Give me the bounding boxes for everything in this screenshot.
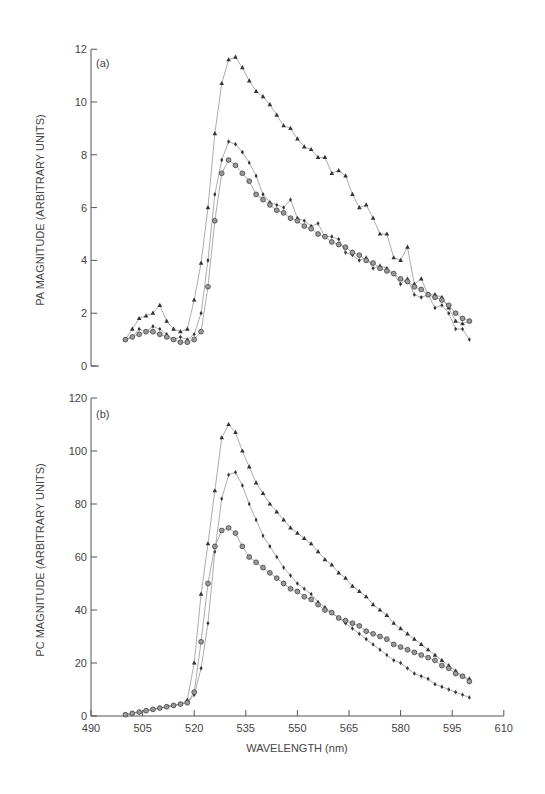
circle-marker	[316, 602, 321, 607]
triangle-marker	[158, 303, 163, 307]
circle-marker	[405, 647, 410, 652]
triangle-marker	[233, 55, 238, 59]
y-tick-label: 40	[75, 604, 87, 616]
circle-marker	[419, 653, 424, 658]
triangle-marker	[302, 536, 307, 540]
circle-marker	[288, 216, 293, 221]
circle-marker	[446, 666, 451, 671]
x-tick-label: 565	[340, 722, 358, 734]
circle-marker	[378, 266, 383, 271]
series-line-circles	[125, 160, 469, 342]
circle-marker	[240, 171, 245, 176]
circle-marker	[171, 703, 176, 708]
triangle-marker	[261, 94, 266, 98]
series-line-triangles	[125, 425, 469, 715]
triangle-marker	[385, 231, 390, 235]
circle-marker	[446, 303, 451, 308]
circle-marker	[364, 629, 369, 634]
x-tick-label: 520	[185, 722, 203, 734]
circle-marker	[426, 655, 431, 660]
series-line-triangles	[125, 57, 469, 339]
triangle-marker	[254, 480, 259, 484]
circle-marker	[384, 269, 389, 274]
x-tick-label: 490	[82, 722, 100, 734]
circle-marker	[247, 179, 252, 184]
circle-marker	[151, 329, 156, 334]
triangle-marker	[378, 231, 383, 235]
triangle-marker	[364, 594, 369, 598]
triangle-marker	[185, 326, 190, 330]
panel-a-label: (a)	[96, 57, 109, 69]
triangle-marker	[247, 78, 252, 82]
triangle-marker	[433, 652, 438, 656]
circle-marker	[302, 594, 307, 599]
triangle-marker	[405, 631, 410, 635]
circle-marker	[329, 610, 334, 615]
circle-marker	[240, 544, 245, 549]
triangle-marker	[419, 276, 424, 280]
series-line-plus	[125, 142, 469, 340]
series-line-circles	[125, 528, 469, 715]
circle-marker	[329, 240, 334, 245]
circle-marker	[144, 329, 149, 334]
circle-marker	[426, 292, 431, 297]
circle-marker	[288, 586, 293, 591]
triangle-marker	[336, 168, 341, 172]
circle-marker	[233, 531, 238, 536]
circle-marker	[185, 700, 190, 705]
circle-marker	[219, 171, 224, 176]
circle-marker	[343, 618, 348, 623]
triangle-marker	[419, 642, 424, 646]
circle-marker	[254, 560, 259, 565]
circle-marker	[350, 621, 355, 626]
circle-marker	[144, 708, 149, 713]
circle-marker	[226, 158, 231, 163]
triangle-marker	[330, 562, 335, 566]
triangle-marker	[398, 626, 403, 630]
circle-marker	[137, 710, 142, 715]
panel-b-plot: 0204060801001204905055205355505655805956…	[69, 392, 513, 734]
circle-marker	[192, 690, 197, 695]
circle-marker	[467, 319, 472, 324]
y-axis-label-b: PC MAGNITUDE (ARBITRARY UNITS)	[34, 463, 46, 656]
triangle-marker	[440, 658, 445, 662]
x-tick-label: 550	[288, 722, 306, 734]
circle-marker	[185, 340, 190, 345]
circle-marker	[384, 637, 389, 642]
y-tick-label: 20	[75, 657, 87, 669]
circle-marker	[439, 663, 444, 668]
circle-marker	[295, 589, 300, 594]
triangle-marker	[247, 464, 252, 468]
circle-marker	[247, 555, 252, 560]
circle-marker	[371, 261, 376, 266]
circle-marker	[164, 704, 169, 709]
triangle-marker	[364, 202, 369, 206]
x-tick-label: 505	[133, 722, 151, 734]
triangle-marker	[295, 531, 300, 535]
circle-marker	[178, 340, 183, 345]
y-tick-label: 8	[81, 149, 87, 161]
triangle-marker	[357, 589, 362, 593]
x-tick-label: 580	[391, 722, 409, 734]
circle-marker	[164, 335, 169, 340]
triangle-marker	[309, 541, 314, 545]
circle-marker	[151, 707, 156, 712]
circle-marker	[439, 298, 444, 303]
circle-marker	[274, 576, 279, 581]
circle-marker	[350, 250, 355, 255]
circle-marker	[323, 608, 328, 613]
circle-marker	[199, 329, 204, 334]
circle-marker	[357, 253, 362, 258]
y-tick-label: 2	[81, 307, 87, 319]
triangle-marker	[412, 637, 417, 641]
circle-marker	[261, 197, 266, 202]
circle-marker	[123, 337, 128, 342]
circle-marker	[343, 245, 348, 250]
y-tick-label: 100	[69, 445, 87, 457]
circle-marker	[192, 337, 197, 342]
panel-a-plot: 024681012	[75, 43, 472, 372]
circle-marker	[130, 711, 135, 716]
circle-marker	[316, 232, 321, 237]
x-tick-label: 535	[237, 722, 255, 734]
circle-marker	[206, 284, 211, 289]
